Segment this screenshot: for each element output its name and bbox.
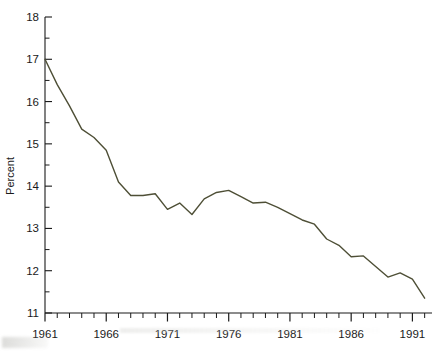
y-axis-title: Percent xyxy=(4,157,16,195)
x-tick-label: 1986 xyxy=(338,328,364,340)
y-tick-label: 16 xyxy=(26,96,39,108)
x-tick-label: 1976 xyxy=(216,328,242,340)
y-tick-label: 18 xyxy=(26,11,39,23)
y-axis-title-text: Percent xyxy=(4,157,16,195)
y-tick-label: 12 xyxy=(26,265,39,277)
y-tick-label: 17 xyxy=(26,53,39,65)
y-tick-label: 15 xyxy=(26,138,39,150)
x-tick-label: 1991 xyxy=(400,328,426,340)
chart-background xyxy=(0,0,438,352)
line-chart-figure: 1112131415161718 19611966197119761981198… xyxy=(0,0,438,352)
x-tick-label: 1981 xyxy=(277,328,303,340)
y-tick-label: 11 xyxy=(27,307,39,319)
x-tick-label: 1971 xyxy=(155,328,181,340)
chart-canvas: 1112131415161718 19611966197119761981198… xyxy=(0,0,438,352)
y-tick-label: 14 xyxy=(26,180,39,192)
y-tick-label: 13 xyxy=(26,222,39,234)
x-tick-label: 1966 xyxy=(93,328,119,340)
x-tick-label: 1961 xyxy=(32,328,58,340)
